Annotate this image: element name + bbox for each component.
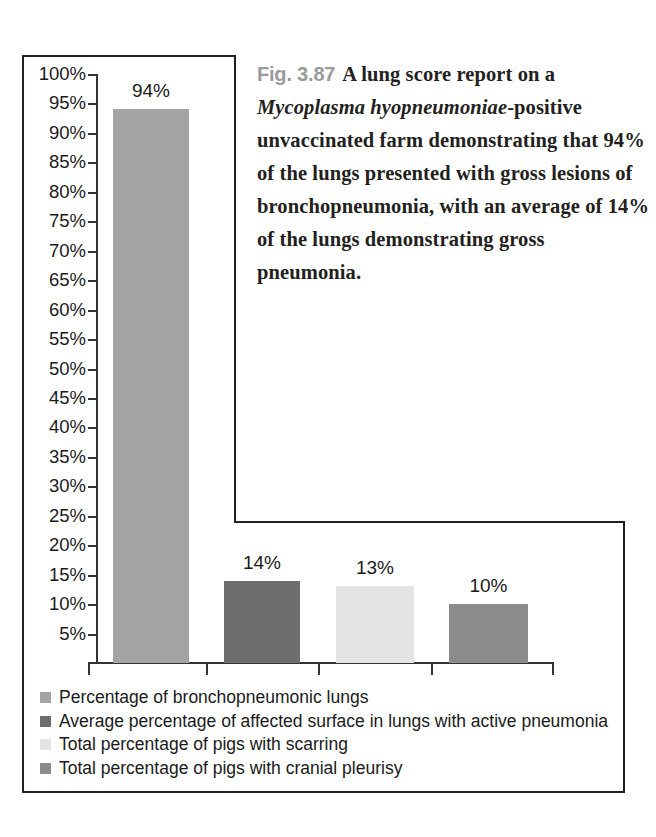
y-axis-tick-mark — [88, 162, 97, 164]
caption-species-name: Mycoplasma hyopneumoniae — [257, 96, 507, 118]
bar-value-label: 14% — [224, 553, 300, 572]
y-axis-tick-mark — [88, 604, 97, 606]
y-axis-tick-mark — [88, 398, 97, 400]
y-axis-tick-mark — [88, 634, 97, 636]
y-axis-tick-label: 80% — [24, 183, 86, 202]
y-axis-tick: 10% — [22, 604, 97, 606]
y-axis-tick-mark — [88, 251, 97, 253]
x-axis-tick-mark — [552, 664, 554, 675]
y-axis-tick-mark — [88, 192, 97, 194]
y-axis-tick-label: 90% — [24, 124, 86, 143]
legend-item-label: Total percentage of pigs with scarring — [59, 736, 348, 754]
y-axis-tick: 85% — [22, 162, 97, 164]
y-axis-tick-mark — [88, 221, 97, 223]
y-axis-tick-label: 85% — [24, 153, 86, 172]
y-axis-tick-mark — [88, 575, 97, 577]
bar-value-label: 94% — [113, 81, 189, 100]
y-axis-tick: 30% — [22, 486, 97, 488]
y-axis-tick-mark — [88, 310, 97, 312]
y-axis-tick-mark — [88, 427, 97, 429]
bar — [224, 581, 300, 663]
y-axis-tick-mark — [88, 457, 97, 459]
y-axis-tick-label: 5% — [24, 625, 86, 644]
x-axis-line — [88, 662, 554, 664]
y-axis-tick-label: 95% — [24, 94, 86, 113]
y-axis-tick: 70% — [22, 251, 97, 253]
bar — [449, 604, 528, 663]
y-axis-tick-label: 55% — [24, 330, 86, 349]
chart-legend: Percentage of bronchopneumonic lungsAver… — [40, 686, 620, 780]
legend-item: Average percentage of affected surface i… — [40, 710, 620, 734]
y-axis-tick-label: 15% — [24, 566, 86, 585]
y-axis-tick-mark — [88, 74, 97, 76]
y-axis-tick: 60% — [22, 310, 97, 312]
y-axis-line — [96, 74, 98, 664]
bar-value-label: 13% — [336, 558, 414, 577]
y-axis-tick: 35% — [22, 457, 97, 459]
y-axis-tick-mark — [88, 339, 97, 341]
y-axis-tick-mark — [88, 103, 97, 105]
x-axis-tick-mark — [431, 664, 433, 675]
y-axis-tick-label: 65% — [24, 271, 86, 290]
bar-value-label: 10% — [449, 576, 528, 595]
legend-swatch-icon — [40, 739, 51, 750]
legend-item-label: Total percentage of pigs with cranial pl… — [59, 760, 402, 778]
y-axis-tick-mark — [88, 516, 97, 518]
y-axis-tick-label: 50% — [24, 360, 86, 379]
y-axis-tick-mark — [88, 486, 97, 488]
y-axis-tick: 100% — [22, 74, 97, 76]
y-axis-tick-label: 40% — [24, 418, 86, 437]
x-axis-tick-mark — [206, 664, 208, 675]
legend-item-label: Percentage of bronchopneumonic lungs — [59, 689, 368, 707]
legend-swatch-icon — [40, 763, 51, 774]
y-axis-tick: 95% — [22, 103, 97, 105]
y-axis-tick-label: 30% — [24, 477, 86, 496]
legend-item: Total percentage of pigs with cranial pl… — [40, 757, 620, 781]
figure-caption: Fig. 3.87A lung score report on a Mycopl… — [257, 58, 649, 289]
y-axis-tick: 55% — [22, 339, 97, 341]
y-axis-tick-mark — [88, 133, 97, 135]
y-axis-tick-label: 20% — [24, 536, 86, 555]
bar — [113, 109, 189, 663]
figure-container: Fig. 3.87A lung score report on a Mycopl… — [0, 0, 656, 837]
legend-item-label: Average percentage of affected surface i… — [59, 713, 608, 731]
y-axis-tick-label: 25% — [24, 507, 86, 526]
caption-text-after-species: -positive unvaccinated farm demonstratin… — [257, 96, 649, 283]
y-axis-tick-mark — [88, 545, 97, 547]
figure-border-joint-mask — [24, 516, 234, 526]
y-axis-tick-mark — [88, 280, 97, 282]
y-axis-tick-label: 100% — [24, 65, 86, 84]
y-axis-tick: 80% — [22, 192, 97, 194]
y-axis-tick-label: 60% — [24, 301, 86, 320]
x-axis-tick-mark — [88, 664, 90, 675]
y-axis-tick: 50% — [22, 369, 97, 371]
y-axis-tick-label: 45% — [24, 389, 86, 408]
legend-item: Total percentage of pigs with scarring — [40, 733, 620, 757]
x-axis-tick-mark — [318, 664, 320, 675]
legend-item: Percentage of bronchopneumonic lungs — [40, 686, 620, 710]
y-axis-tick-label: 70% — [24, 242, 86, 261]
y-axis-tick: 45% — [22, 398, 97, 400]
bar — [336, 586, 414, 663]
y-axis-tick: 5% — [22, 634, 97, 636]
y-axis-tick: 65% — [22, 280, 97, 282]
y-axis-tick-label: 10% — [24, 595, 86, 614]
figure-number: Fig. 3.87 — [257, 63, 335, 85]
figure-border-upper — [22, 55, 236, 523]
legend-swatch-icon — [40, 716, 51, 727]
caption-text-before-species: A lung score report on a — [342, 63, 555, 85]
y-axis-tick: 25% — [22, 516, 97, 518]
y-axis-tick: 90% — [22, 133, 97, 135]
y-axis-tick-mark — [88, 369, 97, 371]
y-axis-tick: 40% — [22, 427, 97, 429]
y-axis-tick-label: 75% — [24, 212, 86, 231]
y-axis-tick: 20% — [22, 545, 97, 547]
y-axis-tick: 75% — [22, 221, 97, 223]
y-axis-tick-label: 35% — [24, 448, 86, 467]
y-axis-tick: 15% — [22, 575, 97, 577]
legend-swatch-icon — [40, 692, 51, 703]
